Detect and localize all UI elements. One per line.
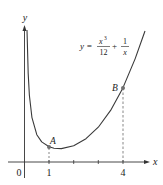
equation-plus: +	[112, 41, 117, 51]
y-axis-label: y	[22, 12, 28, 23]
equation-term2-numerator: 1	[123, 37, 127, 46]
equation-lhs: y =	[79, 41, 92, 51]
equation-term2-denominator: x	[122, 48, 127, 57]
x-tick-label-4: 4	[121, 167, 126, 178]
x-tick-label-1: 1	[47, 167, 52, 178]
equation-label: y = x 3 12 + 1 x	[79, 35, 129, 57]
point-b	[121, 86, 125, 90]
x-axis-arrow-icon	[144, 160, 150, 164]
point-a-label: A	[49, 136, 56, 146]
point-b-label: B	[112, 83, 118, 93]
equation-term1-numerator: x	[98, 37, 103, 46]
y-axis-arrow-icon	[23, 25, 27, 31]
origin-label: 0	[17, 167, 22, 178]
equation-term1-exponent: 3	[104, 35, 107, 41]
x-axis-label: x	[152, 156, 158, 167]
equation-term1-denominator: 12	[100, 48, 108, 57]
graph-diagram: y x 0 1 4 A B y = x 3 12 + 1 x	[0, 0, 163, 185]
graph-canvas: y x 0 1 4 A B y = x 3 12 + 1 x	[0, 0, 163, 185]
